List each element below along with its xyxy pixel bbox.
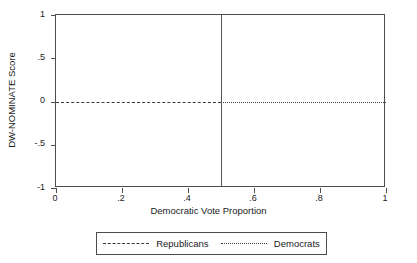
legend-entry: Democrats bbox=[221, 239, 320, 249]
x-axis-tick-label: 1 bbox=[382, 194, 387, 203]
x-axis-tick-label: .2 bbox=[117, 194, 125, 203]
vertical-reference-line bbox=[221, 15, 222, 186]
legend-swatch-dashed bbox=[103, 243, 149, 244]
y-axis-tick-label: .5 bbox=[33, 53, 45, 62]
y-axis-tick-label: -1 bbox=[33, 183, 45, 192]
chart-legend: RepublicansDemocrats bbox=[96, 232, 327, 255]
legend-label: Democrats bbox=[274, 239, 320, 249]
plot-area bbox=[55, 14, 385, 187]
x-axis-tick-label: .6 bbox=[249, 194, 257, 203]
x-axis-title: Democratic Vote Proportion bbox=[0, 205, 417, 216]
series-line-democrats bbox=[221, 102, 386, 103]
y-axis-title: DW-NOMINATE Score bbox=[7, 52, 17, 148]
x-axis-tick-label: 0 bbox=[52, 194, 57, 203]
y-axis-tick bbox=[51, 145, 56, 146]
y-axis-tick-label: 0 bbox=[33, 96, 45, 105]
y-axis-tick bbox=[51, 15, 56, 16]
dw-nominate-figure: DW-NOMINATE Score 1.50-.5-1 0.2.4.6.81 D… bbox=[0, 0, 417, 263]
legend-label: Republicans bbox=[156, 239, 208, 249]
y-axis-tick-label: -.5 bbox=[33, 139, 45, 148]
series-line-republicans bbox=[56, 102, 221, 103]
y-axis-tick bbox=[51, 58, 56, 59]
y-axis-tick-label: 1 bbox=[33, 10, 45, 19]
legend-swatch-dotted bbox=[221, 243, 267, 244]
x-axis-tick-label: .4 bbox=[183, 194, 191, 203]
x-axis-tick-label: .8 bbox=[315, 194, 323, 203]
legend-entry: Republicans bbox=[103, 239, 208, 249]
